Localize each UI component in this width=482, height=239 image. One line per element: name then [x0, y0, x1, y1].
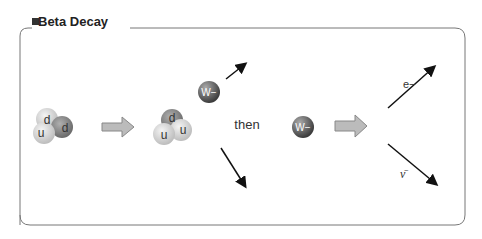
neutron: d d u [33, 108, 73, 144]
svg-text:u: u [161, 128, 168, 142]
svg-text:W−: W− [295, 122, 310, 133]
svg-text:ν̄: ν̄ [400, 167, 408, 181]
beta-decay-diagram: d d u d u u W− then W− e− ν̄ [0, 0, 482, 239]
svg-text:e−: e− [403, 78, 416, 90]
svg-text:d: d [169, 111, 176, 125]
svg-text:W−: W− [201, 87, 216, 98]
svg-text:d: d [44, 113, 51, 127]
svg-text:then: then [234, 117, 259, 132]
diagram-title: Beta Decay [38, 14, 108, 29]
svg-text:u: u [38, 126, 45, 140]
arrow-2 [335, 115, 367, 137]
svg-text:d: d [62, 121, 69, 135]
svg-text:u: u [180, 123, 187, 137]
proton: d u u [153, 109, 192, 145]
arrow-1 [102, 117, 134, 137]
